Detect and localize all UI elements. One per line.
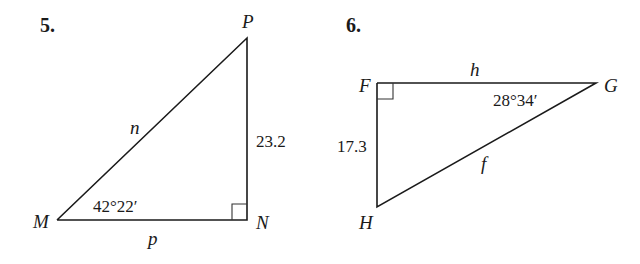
side-label-f: f <box>481 153 489 174</box>
angle-g-label: 28°34′ <box>493 91 538 110</box>
problem-6: 6. F G H h f 17.3 28°34′ <box>337 14 618 233</box>
problem-number: 5. <box>40 14 55 36</box>
side-label-p: p <box>146 228 158 249</box>
vertex-label-f: F <box>358 75 371 96</box>
vertex-label-n: N <box>255 212 270 233</box>
side-length-np: 23.2 <box>256 132 286 151</box>
problem-5: 5. M N P n p 23.2 42°22′ <box>32 11 286 249</box>
diagram-canvas: 5. M N P n p 23.2 42°22′ 6. F G H h f 17… <box>0 0 640 264</box>
vertex-label-g: G <box>604 75 618 96</box>
vertex-label-h: H <box>358 212 374 233</box>
side-label-h: h <box>470 59 480 80</box>
side-length-fh: 17.3 <box>337 137 367 156</box>
right-angle-marker <box>377 83 393 99</box>
vertex-label-p: P <box>241 11 254 32</box>
triangle-mnp <box>57 38 247 220</box>
side-label-n: n <box>130 117 140 138</box>
problem-number: 6. <box>346 14 361 36</box>
angle-m-label: 42°22′ <box>93 197 138 216</box>
right-angle-marker <box>232 204 247 220</box>
vertex-label-m: M <box>32 211 50 232</box>
triangle-fgh <box>377 83 596 207</box>
